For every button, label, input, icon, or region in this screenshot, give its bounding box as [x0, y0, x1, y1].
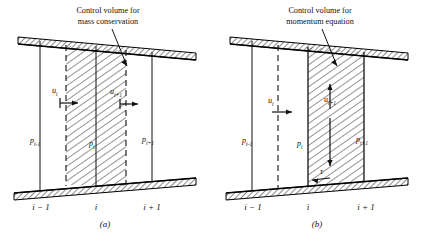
pressure-sub-i-a: i [93, 144, 95, 150]
annotation-b-line1: Control volume for [288, 6, 351, 15]
velocity-sub-i-a: i [56, 91, 58, 97]
pressure-label-i-plus-1-b: pi+1 [356, 135, 368, 146]
pressure-sub-ip1-a: i+1 [146, 140, 154, 146]
velocity-sub-ip1-a: i+1 [114, 92, 122, 98]
panel-b: Control volume for momentum equation ui … [212, 0, 423, 242]
pressure-sub-im1-b: i-1 [246, 141, 252, 147]
caption-b: (b) [297, 219, 337, 229]
control-volume-b [308, 47, 364, 186]
velocity-sub-i-b: i [272, 101, 274, 107]
pressure-sub-im1-a: i-1 [34, 141, 40, 147]
annotation-b-line2: momentum equation [286, 17, 354, 26]
pressure-label-i-a: pi [89, 139, 95, 150]
pressure-label-i-b: pi [297, 139, 303, 150]
pressure-label-i-plus-1-a: pi+1 [142, 135, 154, 146]
annotation-b: Control volume for momentum equation [258, 6, 382, 27]
panel-a: Control volume for mass conservation ui … [0, 0, 211, 242]
velocity-label-i-plus-1-b: ui+1 [324, 95, 336, 106]
pressure-sub-ip1-b: i+1 [360, 140, 368, 146]
velocity-label-i-a: ui [52, 86, 58, 97]
velocity-sub-ip1-b: i+1 [328, 100, 336, 106]
velocity-arrow-i-b [272, 109, 292, 114]
annotation-a: Control volume for mass conservation [48, 6, 168, 27]
annotation-a-line2: mass conservation [78, 17, 138, 26]
caption-a: (a) [85, 219, 125, 229]
shear-stress-label-b: τ [320, 166, 323, 176]
node-label-i-minus-1-a: i − 1 [24, 202, 58, 212]
pressure-label-i-minus-1-b: pi-1 [242, 136, 252, 147]
annotation-a-line1: Control volume for [76, 6, 139, 15]
node-label-i-a: i [82, 202, 110, 212]
node-label-i-plus-1-b: i + 1 [348, 202, 384, 212]
figure-container: Control volume for mass conservation ui … [0, 0, 423, 242]
pressure-sub-i-b: i [301, 144, 303, 150]
node-label-i-minus-1-b: i − 1 [236, 202, 270, 212]
node-label-i-plus-1-a: i + 1 [134, 202, 170, 212]
node-label-i-b: i [294, 202, 322, 212]
velocity-label-i-plus-1-a: ui+1 [110, 87, 122, 98]
pressure-label-i-minus-1-a: pi-1 [30, 136, 40, 147]
velocity-label-i-b: ui [268, 96, 274, 107]
